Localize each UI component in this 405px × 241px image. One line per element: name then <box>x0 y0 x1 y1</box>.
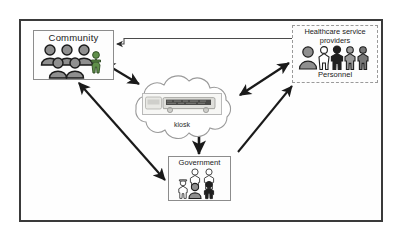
group-of-people-icon <box>39 43 111 79</box>
kiosk-label: kiosk <box>112 121 252 128</box>
diagram-canvas: Community Healthcare service providers <box>0 0 405 241</box>
node-healthcare-providers[interactable]: Healthcare service providers <box>292 25 378 83</box>
node-community[interactable]: Community <box>33 30 114 80</box>
community-label: Community <box>34 32 113 43</box>
healthcare-label: Healthcare service providers <box>293 28 377 45</box>
node-government[interactable]: Government <box>168 156 231 201</box>
kiosk-device-icon <box>142 93 222 115</box>
connector-community-healthcare <box>117 39 300 45</box>
healthcare-personnel-icon <box>299 45 373 70</box>
healthcare-sublabel: Personnel <box>293 70 377 79</box>
node-kiosk-cloud[interactable]: kiosk <box>112 76 252 148</box>
government-officials-icon <box>176 168 226 199</box>
government-label: Government <box>169 158 230 167</box>
healthcare-label-line2: providers <box>320 36 350 45</box>
